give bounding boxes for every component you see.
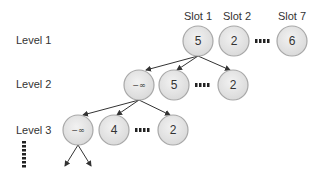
level-1-label: Level 1 [16,34,51,46]
arrow-icon [177,56,198,70]
node-value: 4 [111,123,118,137]
node-value: 2 [231,34,238,48]
arrow-icon [139,100,170,115]
ellipsis-dots-l2 [195,83,210,87]
level-2-label: Level 2 [16,78,51,90]
node-l1-slot7: 6 [277,26,307,56]
node-l1-slot1: 5 [183,26,213,56]
skip-list-diagram: Level 1 Level 2 Level 3 Slot 1 Slot 2 Sl… [0,0,325,179]
arrow-icon [65,145,78,166]
node-value: 5 [171,78,178,92]
slot-7-label: Slot 7 [278,10,306,22]
node-value: −∞ [71,126,84,135]
slot-2-label: Slot 2 [223,10,251,22]
node-l2-b: 5 [159,70,189,100]
arrows-level3-down [65,145,91,166]
ellipsis-dots-l1 [255,39,270,43]
node-l2-neg-inf: −∞ [124,70,154,100]
slot-1-label: Slot 1 [184,10,212,22]
arrow-icon [83,100,139,115]
arrows-level2-to-level3 [83,100,170,115]
node-value: 2 [230,78,237,92]
arrows-level1-to-level2 [146,56,230,70]
node-value: 6 [289,34,296,48]
arrow-icon [78,145,91,166]
level-3-label: Level 3 [16,124,51,136]
node-value: 5 [195,34,202,48]
node-l3-c: 2 [158,115,188,145]
node-l3-b: 4 [99,115,129,145]
ellipsis-dots-l3 [135,128,150,132]
node-value: 2 [170,123,177,137]
node-value: −∞ [132,81,145,90]
node-l3-neg-inf: −∞ [63,115,93,145]
arrow-icon [146,56,198,70]
arrow-icon [117,100,139,115]
vertical-ellipsis-dots [22,141,26,168]
arrow-icon [198,56,230,70]
node-l2-c: 2 [218,70,248,100]
node-l1-slot2: 2 [219,26,249,56]
